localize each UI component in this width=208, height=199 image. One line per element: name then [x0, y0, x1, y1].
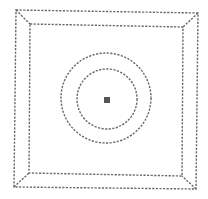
bevel-line: [16, 10, 30, 24]
diagram-canvas: [0, 0, 208, 199]
bevel-line: [183, 13, 198, 27]
center-marker: [104, 97, 110, 103]
diagram-svg: [0, 0, 208, 199]
bevel-line: [182, 176, 196, 189]
bevel-line: [14, 173, 29, 187]
